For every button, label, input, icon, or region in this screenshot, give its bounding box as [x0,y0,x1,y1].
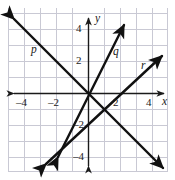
x-tick-neg4: –4 [16,97,27,108]
coordinate-plane-figure: y x 4 2 –2 –4 –4 –2 2 4 p q r [0,0,175,180]
y-axis-label: y [95,13,100,25]
line-label-p: p [31,44,37,56]
line-label-q: q [113,46,119,58]
y-tick-neg4: –4 [73,151,84,162]
x-axis-label: x [162,96,167,108]
y-tick-neg2: –2 [73,119,84,130]
x-tick-4: 4 [146,97,152,108]
line-label-r: r [141,60,145,72]
y-tick-4: 4 [76,23,82,34]
graph-canvas [0,0,175,180]
y-tick-2: 2 [76,55,82,66]
x-tick-neg2: –2 [48,97,59,108]
x-tick-2: 2 [113,97,119,108]
